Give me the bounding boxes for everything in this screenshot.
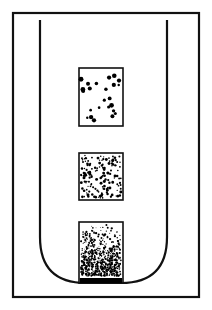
particle-dot	[82, 234, 84, 236]
particle-dot	[91, 268, 93, 270]
particle-dot	[110, 253, 111, 254]
particle-dot	[89, 256, 90, 257]
particle-dot	[92, 263, 93, 264]
particle-dot	[85, 273, 87, 275]
particle-dot	[101, 260, 102, 261]
particle-dot	[119, 269, 120, 270]
particle-dot	[107, 179, 109, 181]
particle-dot	[107, 256, 109, 258]
particle-dot	[102, 172, 105, 175]
particle-dot	[86, 181, 88, 183]
particle-dot	[83, 270, 84, 271]
particle-dot	[104, 241, 105, 242]
particle-dot	[119, 275, 120, 276]
particle-dot	[107, 254, 109, 256]
particle-dot	[103, 168, 106, 171]
particle-dot	[119, 249, 121, 251]
particle-dot	[81, 89, 85, 93]
particle-dot	[104, 275, 105, 276]
particle-dot	[100, 243, 102, 245]
particle-dot	[81, 256, 82, 257]
particle-dot	[118, 155, 120, 157]
particle-dot	[86, 259, 88, 261]
particle-dot	[109, 265, 111, 267]
sample-band-top	[79, 68, 123, 126]
particle-dot	[117, 274, 118, 275]
particle-dot	[95, 266, 97, 268]
particle-dot	[83, 273, 85, 275]
particle-dot	[104, 256, 106, 258]
particle-dot	[94, 188, 96, 190]
particle-dot	[109, 103, 114, 108]
particle-dot	[99, 177, 102, 180]
figure-root	[0, 0, 212, 310]
particle-dot	[83, 236, 85, 238]
particle-dot	[105, 224, 107, 226]
particle-dot	[104, 266, 106, 268]
particle-dot	[88, 263, 90, 265]
particle-dot	[86, 82, 90, 86]
particle-dot	[109, 160, 111, 162]
particle-dot	[86, 256, 87, 257]
particle-dot	[86, 117, 88, 119]
particle-dot	[82, 248, 83, 249]
particle-dot	[90, 265, 91, 266]
particle-dot	[102, 270, 104, 272]
particle-dot	[86, 192, 87, 193]
particle-dot	[104, 257, 106, 259]
particle-dot	[119, 194, 122, 197]
particle-dot	[112, 266, 114, 268]
particle-dot	[103, 174, 105, 176]
particle-dot	[105, 264, 106, 265]
particle-dot	[91, 157, 93, 159]
particle-dot	[91, 257, 93, 259]
particle-dot	[81, 187, 83, 189]
particle-dot	[87, 266, 88, 267]
particle-dot	[102, 227, 103, 228]
particle-dot	[114, 234, 115, 235]
particle-dot	[110, 114, 114, 118]
particle-dot	[110, 269, 111, 270]
particle-dot	[96, 227, 97, 228]
particle-dot	[102, 186, 104, 188]
particle-dot	[79, 77, 84, 82]
particle-dot	[116, 231, 117, 232]
particle-dot	[96, 232, 97, 233]
particle-dot	[105, 259, 107, 261]
particle-dot	[88, 242, 90, 244]
particle-dot	[83, 253, 85, 255]
particle-dot	[97, 263, 98, 264]
particle-dot	[97, 266, 99, 268]
particle-dot	[114, 256, 115, 257]
particle-dot	[114, 164, 116, 166]
particle-dot	[88, 181, 90, 183]
particle-dot	[89, 233, 91, 235]
particle-dot	[81, 260, 82, 261]
particle-dot	[86, 163, 89, 166]
particle-dot	[81, 254, 82, 255]
particle-dot	[100, 251, 101, 252]
particle-dot	[99, 256, 100, 257]
particle-dot	[88, 272, 90, 274]
particle-dot	[83, 243, 84, 244]
particle-dot	[92, 227, 94, 229]
particle-dot	[101, 159, 103, 161]
particle-dot	[83, 189, 86, 192]
particle-dot	[87, 270, 88, 271]
particle-dot	[112, 163, 114, 165]
particle-dot	[96, 249, 98, 251]
particle-dot	[97, 268, 99, 270]
particle-dot	[94, 251, 96, 253]
particle-dot	[99, 250, 100, 251]
particle-dot	[98, 234, 100, 236]
particle-dot	[104, 233, 106, 235]
particle-dot	[106, 266, 108, 268]
particle-dot	[119, 182, 121, 184]
particle-dot	[104, 87, 108, 91]
particle-dot	[119, 235, 120, 236]
particle-dot	[88, 171, 91, 174]
particle-dot	[100, 266, 102, 268]
particle-dot	[92, 252, 93, 253]
particle-dot	[90, 237, 92, 239]
particle-dot	[91, 249, 93, 251]
